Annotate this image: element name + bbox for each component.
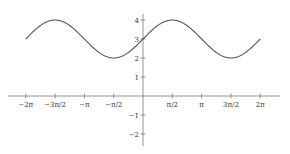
y-tick-label: 2	[135, 55, 139, 63]
x-tick-label: 3π/2	[223, 101, 239, 109]
y-tick-label: −1	[129, 112, 139, 120]
y-tick-label: −2	[129, 131, 139, 139]
x-tick-label: 2π	[256, 101, 265, 109]
x-tick-label: −π	[79, 101, 90, 109]
x-tick-label: −π/2	[105, 101, 122, 109]
y-tick-label: 3	[135, 36, 139, 44]
x-tick-label: π/2	[167, 101, 178, 109]
y-tick-label: 1	[135, 74, 139, 82]
y-tick-label: 4	[135, 17, 140, 25]
function-plot: −2π−3π/2−π−π/2π/2π3π/22π 4321−1−2	[0, 0, 290, 154]
x-tick-label: −2π	[18, 101, 33, 109]
x-tick-label: π	[199, 101, 204, 109]
axes	[8, 14, 280, 146]
x-tick-label: −3π/2	[44, 101, 66, 109]
